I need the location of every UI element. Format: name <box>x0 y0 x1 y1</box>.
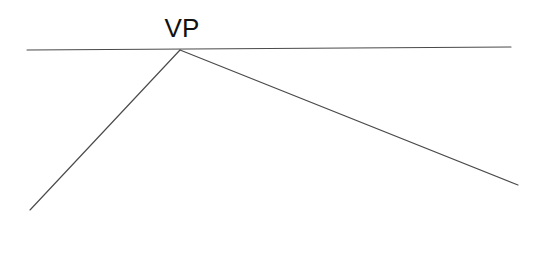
diagram-background <box>0 0 534 254</box>
vanishing-point-label: VP <box>164 13 199 43</box>
perspective-diagram-svg: VP <box>0 0 534 254</box>
perspective-diagram-canvas: VP <box>0 0 534 254</box>
